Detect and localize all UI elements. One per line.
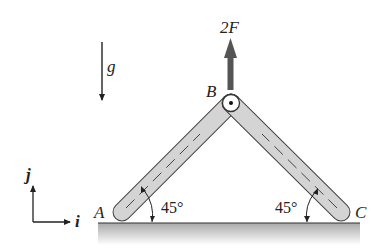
bar-ab xyxy=(122,103,231,212)
coordinate-axes xyxy=(33,186,70,222)
pin-center-dot xyxy=(229,101,233,105)
end-a-label: A xyxy=(93,203,105,222)
axis-i-label: i xyxy=(75,212,80,231)
ground xyxy=(98,223,360,245)
angle-right-label: 45° xyxy=(275,199,297,216)
two-bar-linkage-diagram: 2F g B A C j i 45° 45° xyxy=(0,0,387,248)
pin-b-label: B xyxy=(206,82,217,101)
force-arrow-2f xyxy=(224,38,237,90)
pin-b xyxy=(223,95,240,112)
angle-left-label: 45° xyxy=(161,199,183,216)
bar-bc xyxy=(231,103,341,212)
gravity-label: g xyxy=(107,57,116,76)
axis-j-label: j xyxy=(23,165,31,184)
end-c-label: C xyxy=(355,203,367,222)
force-label: 2F xyxy=(220,18,240,37)
ground-shading xyxy=(98,223,360,245)
